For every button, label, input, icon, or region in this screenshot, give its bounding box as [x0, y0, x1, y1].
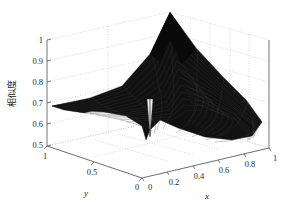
- svg-text:0.5: 0.5: [87, 167, 98, 177]
- y-tick-labels: 1 0.5 0: [43, 151, 139, 192]
- svg-text:0.6: 0.6: [32, 119, 43, 129]
- z-axis-label: 相似度: [6, 80, 17, 107]
- svg-text:0.5: 0.5: [32, 140, 43, 150]
- svg-text:0.7: 0.7: [32, 98, 43, 108]
- svg-text:0.2: 0.2: [169, 177, 180, 187]
- svg-text:0.8: 0.8: [32, 77, 43, 87]
- figure-3d-surface-plot: 1 0.9 0.8 0.7 0.6 0.5 1 0.5 0 0 0.2 0.4 …: [0, 0, 283, 210]
- plot-canvas: 1 0.9 0.8 0.7 0.6 0.5 1 0.5 0 0 0.2 0.4 …: [0, 0, 283, 210]
- svg-text:0.6: 0.6: [219, 165, 230, 175]
- svg-text:0.9: 0.9: [32, 56, 43, 66]
- svg-text:0: 0: [135, 182, 139, 192]
- svg-text:1: 1: [273, 153, 277, 163]
- svg-text:1: 1: [39, 35, 43, 45]
- y-axis-label: y: [83, 188, 88, 198]
- svg-text:0.8: 0.8: [245, 159, 256, 169]
- svg-text:1: 1: [43, 151, 47, 161]
- x-axis-label: x: [204, 191, 209, 201]
- z-tick-labels: 1 0.9 0.8 0.7 0.6 0.5: [32, 35, 43, 150]
- svg-text:0: 0: [148, 182, 152, 192]
- svg-text:0.4: 0.4: [194, 171, 205, 181]
